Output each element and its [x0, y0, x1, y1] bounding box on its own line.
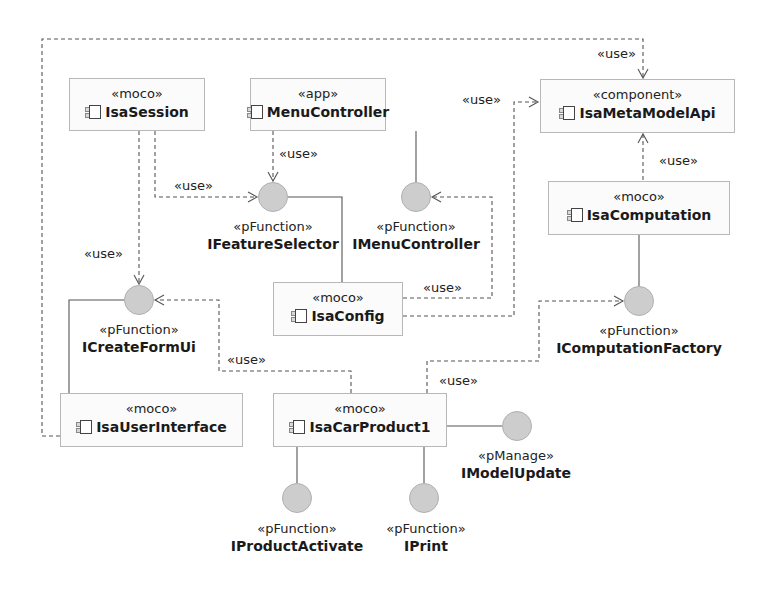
- stereotype-label: «component»: [541, 87, 734, 103]
- component-isa-computation[interactable]: «moco» IsaComputation: [548, 181, 730, 235]
- component-name: IsaMetaModelApi: [579, 103, 715, 123]
- interface-imenu-controller-circle[interactable]: [401, 182, 431, 212]
- interface-imodel-update-circle[interactable]: [502, 411, 532, 441]
- use-label-menucontroller-featureselector: «use»: [279, 146, 318, 161]
- component-icon: [85, 105, 101, 119]
- component-menu-controller[interactable]: «app» MenuController: [250, 78, 386, 131]
- component-isa-session[interactable]: «moco» IsaSession: [69, 78, 205, 131]
- stereotype-label: «moco»: [549, 189, 729, 205]
- component-icon: [76, 420, 92, 434]
- component-name: IsaUserInterface: [96, 417, 227, 437]
- interface-imenu-controller-label: «pFunction» IMenuController: [352, 218, 480, 254]
- interface-iproduct-activate-label: «pFunction» IProductActivate: [231, 520, 363, 556]
- interface-iproduct-activate-circle[interactable]: [282, 483, 312, 513]
- component-name: IsaCarProduct1: [309, 417, 430, 437]
- component-icon: [247, 105, 263, 119]
- interface-name: IMenuController: [352, 235, 480, 254]
- interface-name: IFeatureSelector: [207, 235, 339, 254]
- component-name: IsaSession: [105, 102, 189, 122]
- interface-iprint-circle[interactable]: [409, 483, 439, 513]
- use-label-session-featureselector: «use»: [174, 178, 213, 193]
- interface-name: ICreateFormUi: [82, 338, 196, 357]
- component-icon: [567, 208, 583, 222]
- component-icon: [559, 106, 575, 120]
- stereotype-label: «app»: [251, 86, 385, 102]
- stereotype-label: «moco»: [274, 401, 446, 417]
- use-label-session-createformui: «use»: [84, 246, 123, 261]
- component-icon: [291, 309, 307, 323]
- interface-icomputation-factory-circle[interactable]: [624, 286, 654, 316]
- use-label-config-menucontroller: «use»: [423, 280, 462, 295]
- stereotype-label: «pFunction»: [231, 520, 363, 537]
- interface-icomputation-factory-label: «pFunction» IComputationFactory: [556, 322, 722, 358]
- component-diagram: «moco» IsaSession «app» MenuController «…: [0, 0, 768, 597]
- use-label-config-metamodelapi: «use»: [462, 92, 501, 107]
- component-isa-car-product1[interactable]: «moco» IsaCarProduct1: [273, 393, 447, 447]
- component-isa-config[interactable]: «moco» IsaConfig: [273, 282, 403, 336]
- use-label-computation-metamodelapi: «use»: [659, 153, 698, 168]
- component-isa-user-interface[interactable]: «moco» IsaUserInterface: [60, 393, 243, 447]
- interface-name: IPrint: [386, 537, 465, 556]
- component-name: MenuController: [267, 102, 389, 122]
- stereotype-label: «pFunction»: [207, 218, 339, 235]
- stereotype-label: «pFunction»: [82, 321, 196, 338]
- stereotype-label: «pFunction»: [386, 520, 465, 537]
- component-name: IsaComputation: [587, 205, 712, 225]
- use-label-userinterface-metamodelapi: «use»: [597, 46, 636, 61]
- interface-icreate-form-ui-circle[interactable]: [124, 285, 154, 315]
- stereotype-label: «moco»: [274, 290, 402, 306]
- component-name: IsaConfig: [311, 306, 384, 326]
- interface-imodel-update-label: «pManage» IModelUpdate: [461, 447, 571, 483]
- interface-ifeature-selector-label: «pFunction» IFeatureSelector: [207, 218, 339, 254]
- interface-name: IComputationFactory: [556, 339, 722, 358]
- use-label-carproduct-createformui: «use»: [227, 352, 266, 367]
- stereotype-label: «pFunction»: [352, 218, 480, 235]
- stereotype-label: «moco»: [61, 401, 242, 417]
- interface-icreate-form-ui-label: «pFunction» ICreateFormUi: [82, 321, 196, 357]
- interface-name: IModelUpdate: [461, 464, 571, 483]
- interface-name: IProductActivate: [231, 537, 363, 556]
- stereotype-label: «pManage»: [461, 447, 571, 464]
- use-label-carproduct-computationfactory: «use»: [439, 373, 478, 388]
- interface-iprint-label: «pFunction» IPrint: [386, 520, 465, 556]
- stereotype-label: «pFunction»: [556, 322, 722, 339]
- component-icon: [289, 420, 305, 434]
- component-isa-meta-model-api[interactable]: «component» IsaMetaModelApi: [540, 79, 735, 133]
- interface-ifeature-selector-circle[interactable]: [258, 182, 288, 212]
- stereotype-label: «moco»: [70, 86, 204, 102]
